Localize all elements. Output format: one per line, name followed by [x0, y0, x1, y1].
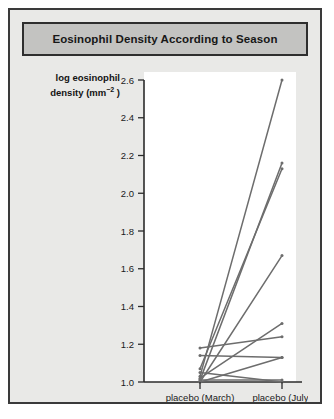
data-point: [199, 347, 202, 350]
x-tick-label: placebo (March): [166, 392, 235, 402]
data-point: [281, 254, 284, 257]
y-tick-label: 2.4: [121, 112, 134, 123]
data-point: [281, 167, 284, 170]
figure-container: Eosinophil Density According to Season l…: [8, 8, 322, 404]
data-point: [281, 356, 284, 359]
y-tick-label: 1.8: [121, 226, 134, 237]
y-tick-label: 2.6: [121, 75, 134, 86]
data-point: [281, 79, 284, 82]
plot-background: [144, 72, 296, 382]
data-point: [281, 335, 284, 338]
page-title: Eosinophil Density According to Season: [52, 33, 277, 45]
data-point: [199, 367, 202, 370]
data-point: [281, 162, 284, 165]
data-point: [199, 371, 202, 374]
y-tick-label: 1.4: [121, 301, 134, 312]
x-tick-label: placebo (July): [252, 392, 308, 402]
chart-title-bar: Eosinophil Density According to Season: [22, 22, 308, 56]
y-tick-label: 1.2: [121, 339, 134, 350]
y-tick-label: 1.0: [121, 377, 134, 388]
y-tick-label: 2.2: [121, 150, 134, 161]
y-axis-ticks: 1.01.21.41.61.82.02.22.42.6: [121, 75, 144, 388]
x-axis-ticks: placebo (March)placebo (July): [166, 382, 308, 402]
line-chart: 1.01.21.41.61.82.02.22.42.6 placebo (Mar…: [22, 60, 308, 402]
y-tick-label: 2.0: [121, 188, 134, 199]
data-point: [281, 322, 284, 325]
y-tick-label: 1.6: [121, 263, 134, 274]
plot-panel: log eosinophil density (mm−2 ) 1.01.21.4…: [22, 60, 308, 402]
data-point: [199, 379, 202, 382]
data-point: [199, 354, 202, 357]
